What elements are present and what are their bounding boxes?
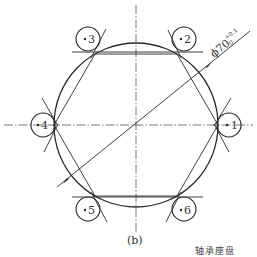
tangent-line [214,124,229,152]
measuring-point-5: 5 [76,197,100,221]
svg-text:4: 4 [41,119,48,132]
diameter-dimension-text: ϕ70 +0.1 0 [206,26,243,60]
svg-text:6: 6 [184,204,191,217]
svg-text:+0.1: +0.1 [223,26,239,41]
measuring-point-2: 2 [172,27,196,51]
tangent-line [166,192,181,222]
svg-text:1: 1 [231,119,238,132]
measuring-point-3: 3 [76,27,100,51]
svg-text:5: 5 [88,204,95,217]
svg-text:2: 2 [184,33,191,46]
truncated-caption-text: 轴承座盘 [195,244,235,257]
figure-caption: (b) [127,234,143,247]
svg-text:3: 3 [88,33,95,46]
measuring-point-6: 6 [172,197,196,221]
